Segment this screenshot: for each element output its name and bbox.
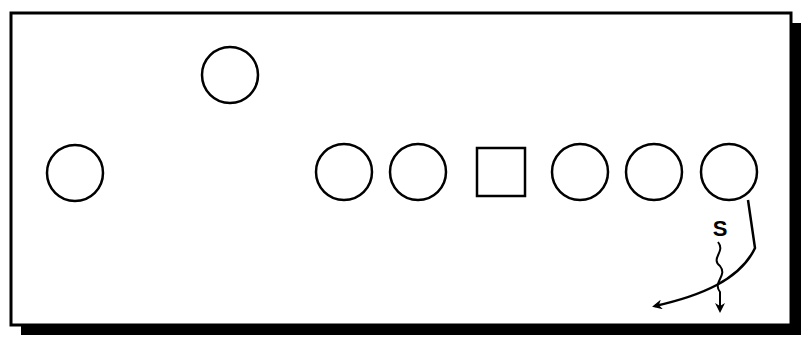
player-center-square-icon — [477, 148, 525, 196]
player-line-3-circle-icon — [552, 144, 608, 200]
player-end-right-circle-icon — [701, 144, 757, 200]
player-line-4-circle-icon — [626, 144, 682, 200]
safety-label: S — [713, 216, 728, 241]
player-line-2-circle-icon — [390, 144, 446, 200]
player-backfield-top-circle-icon — [202, 47, 258, 103]
player-line-1-circle-icon — [316, 144, 372, 200]
play-diagram: S — [0, 0, 805, 337]
player-wide-left-circle-icon — [47, 145, 103, 201]
